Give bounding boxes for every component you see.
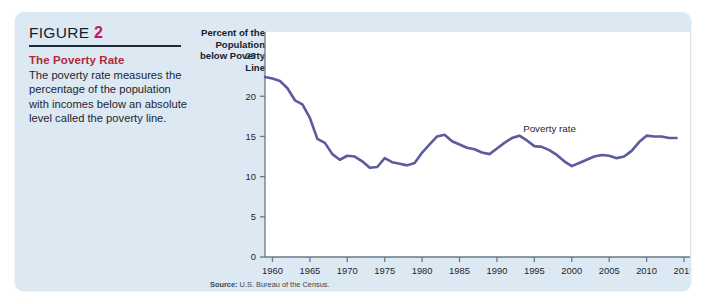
y-tick-label: 10 — [246, 171, 256, 182]
y-tick-label: 25 — [246, 50, 256, 61]
poverty-rate-line-chart: 0510152025196019651970197519801985199019… — [190, 22, 690, 284]
series-label: Poverty rate — [523, 123, 576, 134]
source-prefix: Source: — [210, 280, 238, 289]
x-tick-label: 1970 — [337, 265, 358, 276]
x-tick-label: 2015 — [674, 265, 690, 276]
figure-number: 2 — [94, 24, 103, 41]
x-tick-label: 2010 — [636, 265, 657, 276]
figure-subtitle: The Poverty Rate — [29, 54, 189, 66]
figure-description: The poverty rate measures the percentage… — [29, 68, 189, 125]
y-tick-label: 5 — [251, 211, 256, 222]
x-tick-label: 1960 — [262, 265, 283, 276]
x-tick-label: 1965 — [299, 265, 320, 276]
x-tick-label: 1985 — [449, 265, 470, 276]
figure-left-panel: FIGURE 2 The Poverty Rate The poverty ra… — [29, 24, 189, 125]
y-tick-label: 20 — [246, 91, 256, 102]
source-text: U.S. Bureau of the Census. — [240, 280, 330, 289]
chart-area: Percent of thePopulationbelow PovertyLin… — [190, 22, 690, 284]
x-tick-label: 1980 — [412, 265, 433, 276]
figure-heading: FIGURE 2 — [29, 24, 189, 42]
x-tick-label: 2000 — [561, 265, 582, 276]
figure-label: FIGURE — [29, 24, 89, 41]
y-tick-label: 15 — [246, 131, 256, 142]
plot-background — [265, 32, 690, 257]
figure-card: FIGURE 2 The Poverty Rate The poverty ra… — [15, 12, 691, 290]
x-tick-label: 1975 — [374, 265, 395, 276]
x-tick-label: 1995 — [524, 265, 545, 276]
x-tick-label: 1990 — [487, 265, 508, 276]
source-note: Source: U.S. Bureau of the Census. — [210, 280, 330, 289]
y-tick-label: 0 — [251, 251, 256, 262]
x-tick-label: 2005 — [599, 265, 620, 276]
heading-divider — [29, 45, 181, 47]
